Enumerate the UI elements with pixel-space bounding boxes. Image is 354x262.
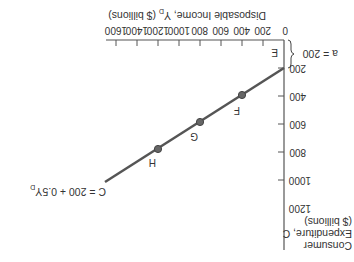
intercept-label: a = 200: [303, 48, 338, 60]
y-tick-400: 400: [289, 91, 306, 102]
y-axis-title: Consumer Expenditure, C ($ billions): [283, 216, 352, 252]
x-tick-200: 200: [254, 25, 271, 36]
x-tick-800: 800: [191, 25, 208, 36]
y-tick-200: 200: [289, 63, 306, 74]
y-tick-1200: 1200: [289, 203, 311, 214]
point-g: [196, 118, 203, 125]
consumption-line: [105, 68, 284, 182]
y-ticks: [278, 68, 284, 180]
point-h-label: H: [149, 157, 156, 168]
y-tick-800: 800: [289, 147, 306, 158]
x-tick-1400: 1400: [126, 25, 148, 36]
x-tick-1600: 1600: [105, 25, 127, 36]
point-f-label: F: [234, 105, 240, 116]
point-g-label: G: [190, 131, 198, 142]
x-tick-1200: 1200: [147, 25, 169, 36]
x-tick-600: 600: [212, 25, 229, 36]
y-axis-line2: Expenditure, C: [283, 228, 352, 240]
rotated-chart: 0 200 400 600 800 1000 1200 1400 1600 Di…: [0, 0, 354, 262]
x-axis-title: Disposable Income, YD ($ billions): [108, 8, 266, 22]
function-label: C = 200 + 0.5YD: [30, 184, 106, 198]
y-tick-600: 600: [289, 119, 306, 130]
y-tick-1000: 1000: [289, 175, 311, 186]
y-axis-line3: ($ billions): [283, 216, 352, 228]
x-tick-0: 0: [282, 25, 288, 36]
point-f: [238, 91, 245, 98]
x-tick-400: 400: [233, 25, 250, 36]
point-h: [154, 145, 161, 152]
y-axis-line1: Consumer: [283, 240, 352, 252]
x-ticks: [116, 40, 263, 46]
point-e-label: E: [271, 47, 278, 58]
x-tick-1000: 1000: [168, 25, 190, 36]
chart-stage: 0 200 400 600 800 1000 1200 1400 1600 Di…: [0, 0, 354, 262]
